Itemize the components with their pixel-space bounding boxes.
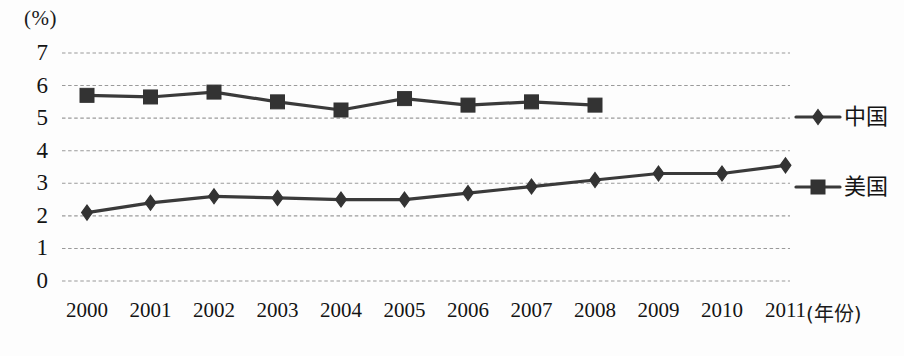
series-usa-line [80,85,602,117]
legend-markers [796,110,840,195]
legend-label-usa: 美国 [844,176,888,198]
line-chart-figure: (%) (年份) 76543210 2000200120022003200420… [0,0,904,356]
chart-plot-area [0,0,904,356]
gridlines [62,53,790,281]
series-china-line [82,158,791,220]
legend-label-china: 中国 [844,106,888,128]
